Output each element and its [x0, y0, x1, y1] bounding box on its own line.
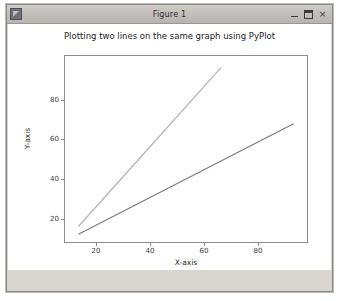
x-tick-mark	[258, 243, 259, 246]
window-controls	[290, 10, 332, 19]
y-tick-mark	[61, 139, 64, 140]
y-axis-tick-labels: 80 60 40 20	[8, 55, 59, 243]
figure-toolbar-strip	[8, 270, 331, 290]
data-line-1	[78, 68, 221, 227]
x-tick-label: 20	[92, 247, 101, 255]
x-tick-mark	[150, 243, 151, 246]
y-axis-label: Y-axis	[23, 114, 32, 164]
data-line-2	[78, 124, 293, 234]
matplotlib-figure-icon	[10, 8, 22, 20]
y-tick-label: 20	[50, 215, 59, 223]
x-tick-label: 40	[146, 247, 155, 255]
figure-canvas: Plotting two lines on the same graph usi…	[8, 24, 331, 270]
x-tick-mark	[204, 243, 205, 246]
y-tick-label: 80	[50, 96, 59, 104]
y-tick-mark	[61, 219, 64, 220]
window-titlebar[interactable]: Figure 1	[7, 5, 332, 24]
chart-title: Plotting two lines on the same graph usi…	[8, 31, 331, 41]
minimize-icon[interactable]	[290, 10, 299, 19]
y-tick-mark	[61, 100, 64, 101]
x-axis-label: X-axis	[64, 258, 308, 267]
x-tick-mark	[96, 243, 97, 246]
x-tick-label: 60	[200, 247, 209, 255]
plot-axes	[64, 55, 308, 243]
y-tick-label: 40	[50, 175, 59, 183]
plot-lines	[65, 56, 307, 242]
x-tick-label: 80	[254, 247, 263, 255]
y-tick-label: 60	[50, 135, 59, 143]
y-tick-mark	[61, 179, 64, 180]
close-icon[interactable]	[318, 10, 327, 19]
figure-window: Figure 1 Plotting two lines on the same …	[6, 4, 333, 292]
window-title: Figure 1	[7, 10, 332, 19]
maximize-icon[interactable]	[304, 10, 313, 19]
